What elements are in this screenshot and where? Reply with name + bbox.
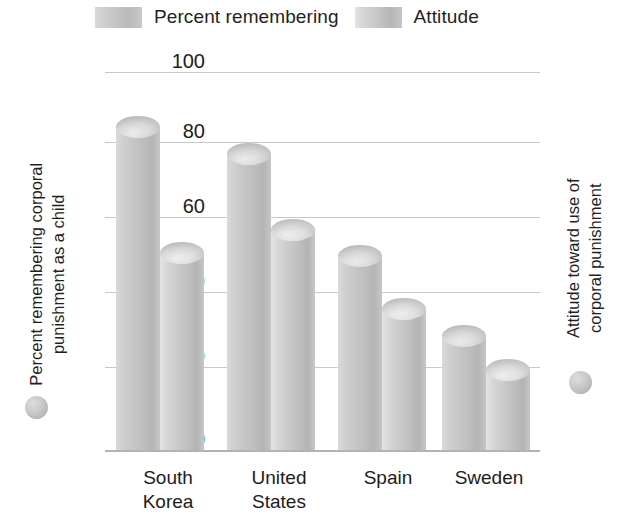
bar-united-states-percent-remembering[interactable] xyxy=(227,143,271,450)
x-label-sweden: Sweden xyxy=(424,466,554,490)
bar-body xyxy=(227,154,271,450)
x-label-line1: South xyxy=(143,467,193,488)
bar-south-korea-percent-remembering[interactable] xyxy=(116,116,160,450)
bar-body xyxy=(271,230,315,450)
plot-area: 100 80 60 40 20 0 5 4 3 2 1 0 xyxy=(105,72,540,451)
right-axis-title-line2: corporal punishment xyxy=(584,108,606,408)
bar-spain-attitude[interactable] xyxy=(382,298,426,450)
legend-label-attitude: Attitude xyxy=(414,6,479,28)
bar-sweden-percent-remembering[interactable] xyxy=(442,325,486,450)
bar-south-korea-attitude[interactable] xyxy=(160,242,204,450)
x-label-line1: Sweden xyxy=(455,467,524,488)
bar-sweden-attitude[interactable] xyxy=(486,359,530,450)
bar-cap-shade xyxy=(160,242,204,264)
bar-body xyxy=(160,253,204,450)
bar-group-united-states xyxy=(227,143,315,451)
bar-group-spain xyxy=(338,245,426,451)
chart-container: Percent remembering Attitude Percent rem… xyxy=(0,0,617,531)
left-axis-marker-icon xyxy=(25,396,48,419)
bar-cap-shade xyxy=(227,143,271,165)
bar-united-states-attitude[interactable] xyxy=(271,219,315,450)
bar-group-south-korea xyxy=(116,116,204,451)
x-label-line1: United xyxy=(252,467,307,488)
legend-item-percent-remembering: Percent remembering xyxy=(95,6,339,28)
bar-body xyxy=(486,370,530,450)
bar-body xyxy=(442,336,486,450)
bar-cap-shade xyxy=(486,359,530,381)
chart-legend: Percent remembering Attitude xyxy=(95,6,479,28)
bar-cap-shade xyxy=(338,245,382,267)
bar-body xyxy=(338,256,382,450)
bar-cap-shade xyxy=(442,325,486,347)
bar-spain-percent-remembering[interactable] xyxy=(338,245,382,450)
bar-cap-shade xyxy=(116,116,160,138)
legend-swatch-attitude-icon xyxy=(355,7,402,28)
left-tick-100: 100 xyxy=(145,50,205,73)
bar-body xyxy=(116,127,160,450)
right-axis-marker-icon xyxy=(569,371,592,394)
bar-cap-shade xyxy=(382,298,426,320)
x-label-line2: States xyxy=(214,490,344,514)
legend-item-attitude: Attitude xyxy=(355,6,479,28)
left-axis-title: Percent remembering corporal punishment … xyxy=(25,109,70,439)
legend-swatch-percent-remembering-icon xyxy=(95,7,142,28)
bar-cap-shade xyxy=(271,219,315,241)
legend-label-percent-remembering: Percent remembering xyxy=(154,6,339,28)
left-axis-title-line1: Percent remembering corporal xyxy=(27,163,45,386)
bar-body xyxy=(382,309,426,450)
right-axis-title: Attitude toward use of corporal punishme… xyxy=(562,108,607,408)
right-axis-title-line1: Attitude toward use of xyxy=(564,178,582,338)
bar-group-sweden xyxy=(442,325,530,451)
left-axis-title-line2: punishment as a child xyxy=(47,109,69,439)
x-label-line1: Spain xyxy=(364,467,413,488)
